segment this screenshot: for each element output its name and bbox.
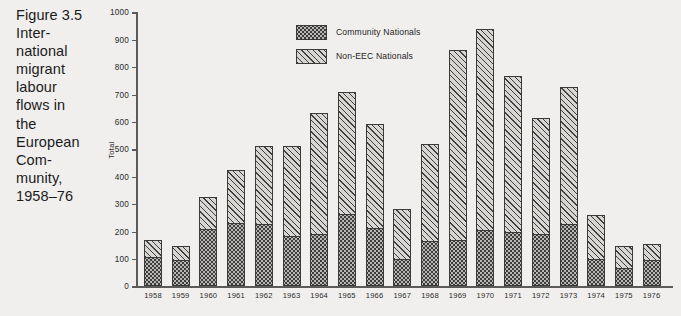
caption-line: migrant	[16, 60, 120, 78]
legend-item[interactable]: Non-EEC Nationals	[296, 46, 421, 66]
x-tick-label: 1959	[172, 291, 190, 300]
caption-line: national	[16, 42, 120, 60]
x-tick-label: 1970	[477, 291, 495, 300]
x-tick-label: 1962	[255, 291, 273, 300]
caption-line: Inter-	[16, 24, 120, 42]
x-tick-label: 1972	[532, 291, 550, 300]
bar-segment-non-eec-nationals[interactable]	[310, 113, 328, 235]
x-tick-label: 1967	[393, 291, 411, 300]
caption-line: the	[16, 115, 120, 133]
y-tick-label: 600	[115, 118, 129, 127]
bar-segment-non-eec-nationals[interactable]	[421, 144, 439, 242]
bar-segment-community-nationals[interactable]	[283, 236, 301, 287]
y-tick-label: 300	[115, 200, 129, 209]
y-tick-label: 700	[115, 90, 129, 99]
bar-segment-community-nationals[interactable]	[587, 259, 605, 286]
bar-segment-community-nationals[interactable]	[476, 230, 494, 286]
y-tick-label: 0	[124, 282, 129, 291]
caption-line: Figure 3.5	[16, 6, 120, 24]
bar-segment-community-nationals[interactable]	[366, 228, 384, 286]
y-tick-label: 900	[115, 35, 129, 44]
x-tick-label: 1966	[366, 291, 384, 300]
bar-segment-community-nationals[interactable]	[227, 223, 245, 286]
bar-segment-non-eec-nationals[interactable]	[449, 50, 467, 240]
bar-segment-community-nationals[interactable]	[172, 260, 190, 287]
bar-segment-non-eec-nationals[interactable]	[504, 76, 522, 232]
bar-segment-community-nationals[interactable]	[255, 224, 273, 286]
bar-segment-non-eec-nationals[interactable]	[172, 246, 190, 261]
y-tick-label: 800	[115, 63, 129, 72]
bar-segment-community-nationals[interactable]	[144, 257, 162, 287]
bar-segment-community-nationals[interactable]	[532, 234, 550, 286]
bar-segment-non-eec-nationals[interactable]	[338, 92, 356, 215]
x-tick-label: 1974	[587, 291, 605, 300]
legend-swatch-icon	[296, 49, 327, 64]
caption-line: labour	[16, 78, 120, 96]
bar-segment-community-nationals[interactable]	[421, 241, 439, 286]
x-axis-ticks: 1958195919601961196219631964196519661967…	[136, 288, 673, 304]
bar-segment-non-eec-nationals[interactable]	[643, 244, 661, 261]
x-tick-label: 1969	[449, 291, 467, 300]
bar-segment-non-eec-nationals[interactable]	[144, 240, 162, 258]
x-tick-label: 1963	[283, 291, 301, 300]
bar-segment-community-nationals[interactable]	[560, 224, 578, 286]
bar-segment-non-eec-nationals[interactable]	[587, 215, 605, 260]
bar-segment-non-eec-nationals[interactable]	[532, 118, 550, 236]
caption-line: European	[16, 133, 120, 151]
bar-segment-community-nationals[interactable]	[393, 259, 411, 286]
figure-container: Figure 3.5Inter-nationalmigrantlabourflo…	[0, 0, 681, 316]
caption-line: flows in	[16, 96, 120, 114]
y-tick-label: 500	[115, 145, 129, 154]
x-tick-label: 1975	[615, 291, 633, 300]
chart-legend: Community NationalsNon-EEC Nationals	[296, 22, 421, 70]
bar-segment-community-nationals[interactable]	[449, 240, 467, 287]
y-tick-label: 1000	[110, 8, 129, 17]
x-tick-label: 1971	[504, 291, 522, 300]
bar-segment-non-eec-nationals[interactable]	[393, 209, 411, 260]
bar-segment-non-eec-nationals[interactable]	[199, 197, 217, 230]
bar-segment-community-nationals[interactable]	[199, 229, 217, 287]
bar-segment-non-eec-nationals[interactable]	[476, 29, 494, 232]
x-tick-label: 1968	[421, 291, 439, 300]
y-tick-label: 400	[115, 172, 129, 181]
y-tick-label: 100	[115, 255, 129, 264]
figure-caption: Figure 3.5Inter-nationalmigrantlabourflo…	[16, 6, 120, 205]
y-tick-label: 200	[115, 227, 129, 236]
bar-segment-community-nationals[interactable]	[338, 214, 356, 286]
caption-line: munity,	[16, 169, 120, 187]
caption-line: 1958–76	[16, 187, 120, 205]
x-tick-label: 1973	[560, 291, 578, 300]
legend-item[interactable]: Community Nationals	[296, 22, 421, 42]
legend-swatch-icon	[296, 25, 327, 40]
legend-item-label: Non-EEC Nationals	[336, 51, 413, 61]
chart-plot-area: Total 01002003004005006007008009001000 1…	[136, 12, 673, 288]
bar-segment-non-eec-nationals[interactable]	[255, 146, 273, 225]
x-tick-label: 1960	[200, 291, 218, 300]
bar-segment-non-eec-nationals[interactable]	[283, 146, 301, 237]
bar-segment-non-eec-nationals[interactable]	[615, 246, 633, 269]
legend-item-label: Community Nationals	[336, 27, 421, 37]
bar-segment-community-nationals[interactable]	[504, 232, 522, 287]
x-tick-label: 1965	[338, 291, 356, 300]
bar-segment-community-nationals[interactable]	[615, 268, 633, 287]
bar-segment-non-eec-nationals[interactable]	[560, 87, 578, 225]
x-tick-label: 1961	[227, 291, 245, 300]
bar-segment-community-nationals[interactable]	[643, 260, 661, 286]
bar-segment-non-eec-nationals[interactable]	[366, 124, 384, 229]
bar-segment-non-eec-nationals[interactable]	[227, 170, 245, 225]
bar-segment-community-nationals[interactable]	[310, 234, 328, 286]
caption-line: Com-	[16, 151, 120, 169]
x-tick-label: 1976	[643, 291, 661, 300]
x-tick-label: 1964	[310, 291, 328, 300]
x-tick-label: 1958	[144, 291, 162, 300]
